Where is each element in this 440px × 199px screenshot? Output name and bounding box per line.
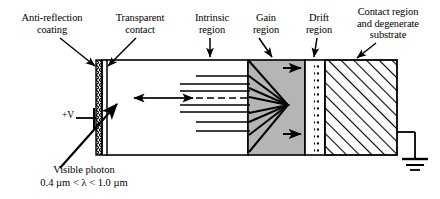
layer-anti-reflection-coating — [96, 60, 102, 155]
leader-drift — [314, 38, 317, 57]
region-intrinsic — [106, 60, 248, 155]
leader-gain — [259, 38, 272, 57]
layer-transparent-contact — [102, 60, 107, 155]
leader-contact-substrate — [357, 43, 376, 58]
region-contact-substrate — [325, 60, 397, 155]
device-cross-section — [0, 0, 440, 199]
drift-dotted-boundary — [314, 61, 319, 154]
leader-anti-reflection — [60, 38, 95, 66]
ground-symbol — [402, 159, 428, 170]
